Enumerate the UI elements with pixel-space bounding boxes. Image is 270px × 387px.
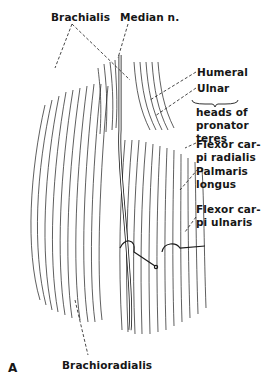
label-fcr-2: pi radialis — [196, 151, 256, 163]
anatomy-illustration — [0, 0, 270, 387]
muscle-fibers — [31, 60, 206, 334]
label-heads-of: heads of — [196, 106, 248, 118]
label-humeral: Humeral — [197, 66, 248, 78]
median-nerve — [120, 55, 131, 330]
label-ulnar: Ulnar — [197, 82, 229, 94]
label-fcu-2: pi ulnaris — [196, 216, 252, 228]
label-brachioradialis: Brachioradialis — [62, 359, 152, 371]
label-pronator: pronator — [196, 119, 249, 131]
label-brachialis: Brachialis — [51, 11, 110, 23]
retractor-hooks — [120, 241, 205, 269]
panel-letter: A — [8, 361, 17, 375]
label-palmaris-1: Palmaris — [196, 165, 248, 177]
label-fcu-1: Flexor car- — [196, 203, 261, 215]
label-palmaris-2: longus — [196, 178, 236, 190]
label-fcr-1: Flexor car- — [196, 138, 261, 150]
label-median-nerve: Median n. — [120, 11, 179, 23]
leader-lines — [55, 24, 198, 355]
